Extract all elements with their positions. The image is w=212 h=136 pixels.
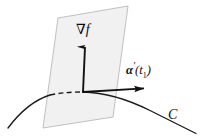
nabla-icon: ∇ — [76, 22, 86, 37]
close-paren: ) — [147, 63, 151, 77]
curve-label: C — [168, 108, 177, 122]
alpha-symbol: α — [126, 63, 133, 77]
tangent-vector-label: α′(t1) — [126, 61, 151, 80]
gradient-vector-label: ∇f — [76, 23, 90, 37]
figure-canvas — [0, 0, 212, 136]
vector-calculus-figure: ∇f α′(t1) C — [0, 0, 212, 136]
gradient-function-letter: f — [86, 22, 90, 37]
base-point — [82, 91, 84, 93]
